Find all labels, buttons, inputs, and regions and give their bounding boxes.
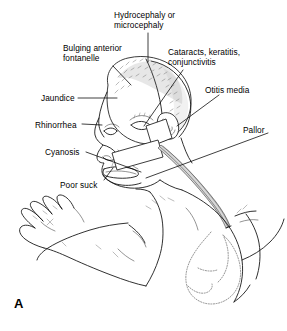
label-hydrocephaly-line2: microcephaly: [114, 20, 163, 30]
label-fontanelle-line1: Bulging anterior: [63, 43, 122, 53]
axilla-crease: [133, 231, 146, 247]
label-cataracts-line1: Cataracts, keratitis,: [168, 47, 240, 57]
hip-mark-1: [237, 209, 241, 213]
thumb-web: [74, 208, 84, 222]
label-cyanosis: Cyanosis: [45, 147, 80, 157]
hip-outline: [242, 219, 284, 260]
label-poor-suck: Poor suck: [60, 180, 97, 190]
stomach-group: [186, 232, 241, 304]
label-hydrocephaly-microcephaly: Hydrocephaly or microcephaly: [114, 10, 206, 31]
shoulder-top-curve: [136, 189, 150, 192]
palm-star-crease: [47, 219, 53, 225]
lip-crease: [112, 163, 113, 166]
knuckle-crease-2: [43, 211, 47, 214]
hip-mark-2: [243, 205, 247, 209]
wrist-crease: [62, 242, 66, 246]
torso-group: [129, 189, 243, 302]
arm-upper-contour: [37, 223, 128, 260]
stomach-lesser-curve: [217, 235, 228, 283]
thigh-outline: [246, 214, 260, 279]
nostril: [104, 156, 111, 158]
knuckle-crease-3: [53, 206, 57, 209]
neck-contour: [160, 180, 182, 190]
forearm-crease: [96, 245, 101, 249]
leader-poorsuck: [104, 168, 113, 180]
neck-back-contour: [181, 138, 192, 163]
back-crease-1: [168, 198, 174, 201]
elbow-crease: [118, 249, 134, 261]
label-pallor: Pallor: [243, 125, 265, 135]
label-jaundice: Jaundice: [41, 93, 75, 103]
label-rhinorrhea: Rhinorrhea: [35, 120, 77, 130]
shoulder-back-outline: [182, 190, 243, 302]
arm-hand-group: [20, 195, 146, 286]
figure-panel: Hydrocephaly or microcephaly Bulging ant…: [0, 0, 287, 331]
scapula-hint: [186, 208, 198, 230]
nasogastric-tube: [158, 145, 230, 228]
knuckle-crease-1: [33, 216, 37, 219]
back-crease-4: [146, 206, 151, 209]
finger-2: [30, 201, 52, 221]
gastric-fold: [198, 268, 217, 271]
palm-outline: [20, 225, 44, 248]
chest-outline: [146, 192, 163, 286]
label-fontanelle-line2: fontanelle: [63, 53, 99, 63]
forehead-contour: [99, 92, 107, 137]
buttock-curve: [234, 285, 250, 302]
elbow-crease-2: [113, 252, 118, 257]
label-otitis-media: Otitis media: [205, 85, 249, 95]
arm-lower-contour: [44, 248, 146, 286]
back-crease-2: [160, 196, 165, 200]
stomach-outline: [186, 232, 241, 304]
label-hydrocephaly-line1: Hydrocephaly or: [114, 10, 175, 20]
figure-letter: A: [14, 296, 23, 311]
palm-crease-1: [41, 222, 55, 231]
finger-4-thumb: [57, 195, 74, 209]
hip-crease: [240, 220, 258, 222]
lower-body-group: [234, 205, 284, 302]
pylorus-duodenum: [188, 284, 212, 293]
label-cataracts-line2: conjunctivitis: [168, 57, 216, 67]
tape-patch-lower: [112, 140, 163, 170]
label-cataracts-keratitis-conjunctivitis: Cataracts, keratitis, conjunctivitis: [168, 47, 284, 68]
label-bulging-anterior-fontanelle: Bulging anterior fontanelle: [63, 43, 155, 64]
